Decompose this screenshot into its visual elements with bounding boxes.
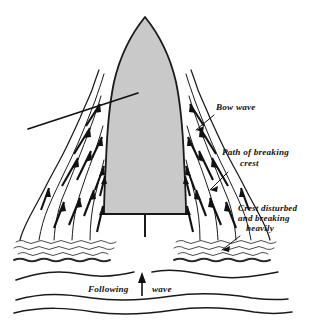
left-crest-b [39, 74, 104, 240]
left-breaking-crest-ripples [14, 241, 116, 262]
path-breaking-line2: crest [240, 158, 259, 168]
left-wake-region [14, 70, 116, 261]
following-wave-line-top-right [152, 270, 278, 277]
path-breaking-line1: Path of breaking [222, 147, 289, 157]
left-flow-arrows [41, 104, 107, 232]
label-crest-disturbed: Crest disturbed and breaking heavily [222, 203, 298, 252]
ship-hull [104, 17, 186, 214]
bow-wave-label: Bow wave [215, 102, 256, 112]
crest-disturbed-line2: and breaking [238, 213, 290, 223]
following-wave-line-middle [16, 294, 288, 300]
wake-diagram-canvas: Bow wave Path of breaking crest Crest di… [0, 0, 322, 323]
right-crest-c [189, 96, 236, 240]
right-breaking-crest-ripples [174, 241, 276, 262]
diagram-root: Bow wave Path of breaking crest Crest di… [0, 0, 322, 323]
crest-disturbed-line3: heavily [246, 223, 275, 233]
following-wave-direction-arrow [138, 272, 146, 296]
following-wave-group: Following wave [14, 270, 292, 314]
following-label-right: wave [152, 284, 172, 294]
crest-disturbed-line1: Crest disturbed [238, 203, 298, 213]
following-label-left: Following [87, 284, 129, 294]
following-wave-line-bottom [14, 308, 292, 314]
following-wave-line-top-left [16, 272, 134, 280]
